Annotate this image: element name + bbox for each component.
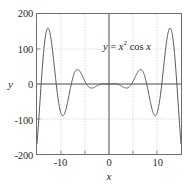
equation-argument: x <box>146 41 151 52</box>
y-tick-label-0: 0 <box>28 79 33 90</box>
plot-area <box>36 13 182 155</box>
x-tick-label-neg10: -10 <box>54 157 67 168</box>
y-tick-label-neg100: -100 <box>15 114 33 125</box>
y-tick-label-100: 100 <box>18 43 33 54</box>
equation-function: cos <box>130 41 144 52</box>
tick-marks <box>37 14 181 154</box>
y-axis-title: y <box>8 78 13 90</box>
x-tick-label-0: 0 <box>106 157 111 168</box>
x-tick-label-10: 10 <box>153 157 163 168</box>
equation-annotation: y = x2 cos x <box>103 39 151 52</box>
x-axis-tick-labels: -10 0 10 <box>0 157 192 171</box>
chart-figure: 200 100 0 -100 -200 y <box>0 0 192 186</box>
x-axis-title: x <box>107 170 112 182</box>
y-tick-label-200: 200 <box>18 8 33 19</box>
